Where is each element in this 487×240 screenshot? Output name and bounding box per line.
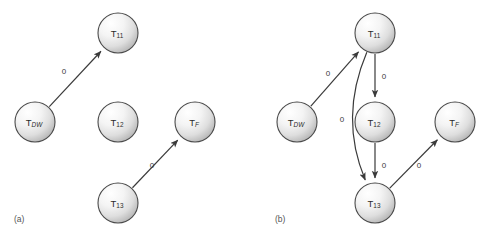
edge-a-edge-tdw-t11	[49, 51, 101, 106]
node-a-tdw[interactable]: TDW	[15, 102, 55, 142]
diagram-canvas: TDWT11T12TFT13TDWT11T12TFT13 00(a)00000(…	[0, 0, 487, 240]
node-b-t12[interactable]: T12	[355, 102, 395, 142]
node-b-t13[interactable]: T13	[355, 183, 395, 223]
node-a-tf[interactable]: TF	[175, 102, 215, 142]
edge-weight-label: 0	[150, 161, 155, 170]
edge-weight-label: 0	[417, 161, 422, 170]
edge-b-edge-tdw-t11	[311, 52, 359, 106]
node-a-t13[interactable]: T13	[98, 183, 138, 223]
edge-weight-label: 0	[326, 69, 331, 78]
nodes-layer: TDWT11T12TFT13TDWT11T12TFT13	[15, 13, 475, 223]
node-b-tf[interactable]: TF	[435, 102, 475, 142]
node-a-t12[interactable]: T12	[98, 102, 138, 142]
edge-weight-label: 0	[382, 72, 387, 81]
edge-weight-label: 0	[62, 67, 67, 76]
panel-caption-a: (a)	[14, 214, 25, 224]
edge-weight-label: 0	[382, 161, 387, 170]
edge-weight-label: 0	[340, 115, 345, 124]
edge-a-edge-t13-tf	[132, 140, 177, 188]
edge-b-edge-t13-tf	[390, 140, 438, 188]
node-a-t11[interactable]: T11	[98, 13, 138, 53]
figure-container: TDWT11T12TFT13TDWT11T12TFT13 00(a)00000(…	[0, 0, 487, 240]
panel-caption-b: (b)	[275, 214, 286, 224]
node-b-t11[interactable]: T11	[355, 13, 395, 53]
node-b-tdw[interactable]: TDW	[277, 102, 317, 142]
